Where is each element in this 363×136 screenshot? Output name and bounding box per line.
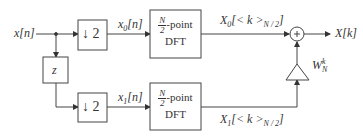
delay-label: z: [52, 64, 57, 76]
signal-x1-label: x1[n]: [118, 91, 143, 106]
downsample-bottom-label: ↓ 2: [82, 100, 100, 114]
twiddle-factor-label: WkN: [312, 58, 327, 74]
downsample-top-label: ↓ 2: [82, 27, 100, 41]
dft-bottom-label: N2-point DFT: [150, 89, 201, 120]
fft-butterfly-diagram: x[n] X[k] z ↓ 2 ↓ 2 x0[n] x1[n] N2-point…: [0, 0, 363, 136]
output-label: X[k]: [335, 27, 357, 39]
signal-x0-label: x0[n]: [118, 18, 143, 33]
output-x1-label: X1[< k >N / 2]: [220, 113, 284, 128]
input-label: x[n]: [14, 27, 35, 39]
dft-top-label: N2-point DFT: [150, 16, 201, 47]
output-x0-label: X0[< k >N / 2]: [220, 14, 284, 29]
